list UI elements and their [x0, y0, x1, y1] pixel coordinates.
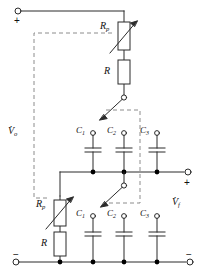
schematic-canvas: Rp R C1 C2 C3 Rp R C1 C2 C3 · Vo · V [0, 0, 201, 273]
capacitor-upper-1 [85, 131, 101, 172]
capacitor-lower-1 [85, 214, 101, 262]
label-potentiometer-upper: Rp [100, 21, 109, 32]
switch-lower[interactable] [101, 172, 127, 207]
label-capacitor-lower-2: C2 [107, 209, 116, 220]
voltage-output-dot: · [173, 192, 177, 203]
label-voltage-output: · Vf [172, 197, 180, 208]
label-capacitor-upper-1: C1 [76, 126, 85, 137]
capacitor-lower-2 [116, 214, 132, 262]
capacitor-upper-3 [149, 131, 165, 172]
circuit-schematic [0, 0, 201, 273]
label-capacitor-upper-2: C2 [107, 126, 116, 137]
switch-upper[interactable] [100, 95, 127, 120]
capacitor-lower-3 [149, 214, 165, 262]
label-capacitor-upper-3: C3 [140, 126, 149, 137]
label-capacitor-lower-1: C1 [76, 209, 85, 220]
label-capacitor-lower-3: C3 [140, 209, 149, 220]
bottom-rail [13, 259, 193, 265]
terminal-output-bottom-sign: − [186, 250, 192, 260]
voltage-input-dot: · [9, 121, 13, 132]
label-voltage-input: · Vo [8, 126, 17, 137]
capacitor-upper-2 [116, 131, 132, 172]
ganging-dashed-right [106, 110, 140, 203]
terminal-output-top-sign: + [184, 178, 190, 188]
resistor-upper-body [118, 60, 130, 84]
label-resistor-upper: R [104, 66, 110, 76]
terminal-input-top-sign: + [14, 16, 20, 26]
ganging-dashed-left [34, 33, 112, 198]
terminal-input-bottom-sign: − [13, 250, 19, 260]
resistor-lower-body [54, 232, 66, 256]
label-potentiometer-lower: Rp [36, 199, 45, 210]
label-resistor-lower: R [41, 238, 47, 248]
input-top-rail [15, 8, 124, 14]
